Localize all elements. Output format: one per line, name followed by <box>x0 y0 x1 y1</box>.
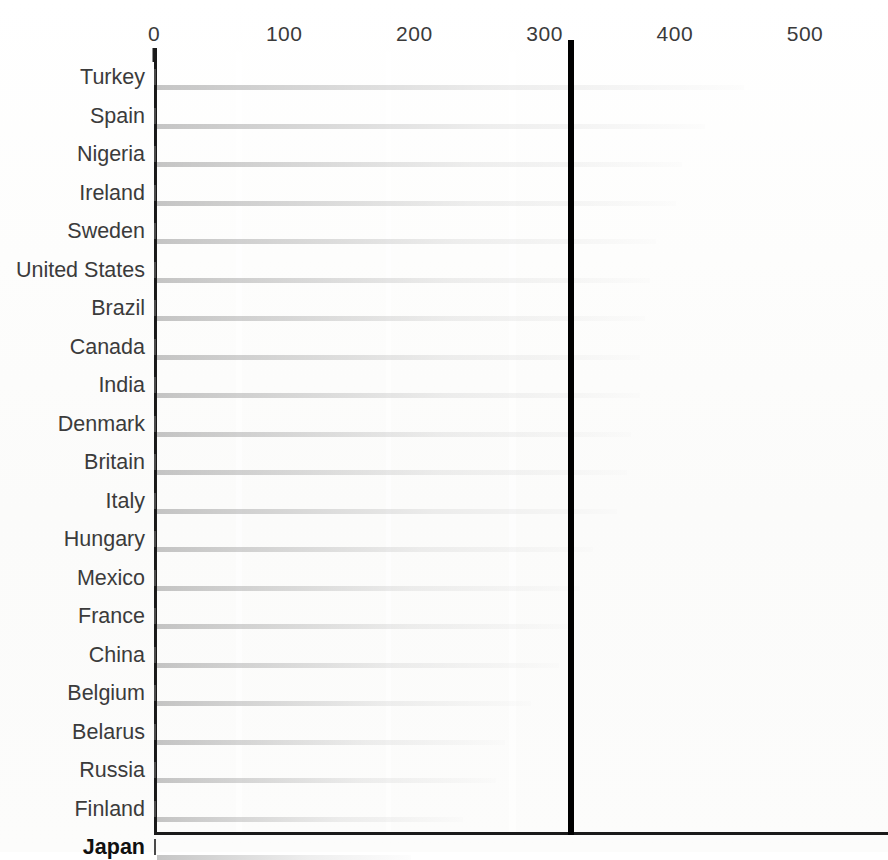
bar-shadow <box>157 624 572 629</box>
x-tick-label: 0 <box>148 22 160 46</box>
x-tick-label: 500 <box>787 22 824 46</box>
bar-shadow <box>157 663 559 668</box>
category-label-india: India <box>0 373 145 398</box>
bar-row[interactable] <box>154 185 673 201</box>
bar-row[interactable] <box>154 608 569 624</box>
bar-shadow <box>157 432 631 437</box>
bar-row[interactable] <box>154 839 408 855</box>
bar[interactable] <box>154 300 156 316</box>
bar-shadow <box>157 85 744 90</box>
bar-row[interactable] <box>154 146 679 162</box>
bar[interactable] <box>154 185 156 201</box>
bar[interactable] <box>154 262 156 278</box>
bar[interactable] <box>154 801 156 817</box>
category-label-ireland: Ireland <box>0 181 145 206</box>
bar-row[interactable] <box>154 531 590 547</box>
bar-row[interactable] <box>154 223 653 239</box>
bar-shadow <box>157 278 650 283</box>
bar[interactable] <box>154 223 156 239</box>
bar[interactable] <box>154 762 156 778</box>
bar-row[interactable] <box>154 416 628 432</box>
bar[interactable] <box>154 339 156 355</box>
category-label-russia: Russia <box>0 758 145 783</box>
category-label-mexico: Mexico <box>0 566 145 591</box>
bar-shadow <box>157 470 627 475</box>
category-label-denmark: Denmark <box>0 412 145 437</box>
x-tick-label: 200 <box>396 22 433 46</box>
bar-row[interactable] <box>154 570 577 586</box>
bar-shadow <box>157 124 705 129</box>
scan-band <box>236 52 242 835</box>
bar-shadow <box>157 740 505 745</box>
bar-row[interactable] <box>154 108 702 124</box>
bar-shadow <box>157 701 531 706</box>
x-tick-label: 300 <box>526 22 563 46</box>
bar-row[interactable] <box>154 377 637 393</box>
bar-row[interactable] <box>154 801 460 817</box>
reference-line <box>568 40 574 835</box>
bar-shadow <box>157 162 682 167</box>
category-label-italy: Italy <box>0 489 145 514</box>
category-label-britain: Britain <box>0 450 145 475</box>
category-label-china: China <box>0 643 145 668</box>
category-label-turkey: Turkey <box>0 65 145 90</box>
scan-band <box>509 52 516 835</box>
bar[interactable] <box>154 647 156 663</box>
category-label-japan: Japan <box>0 835 145 860</box>
bar[interactable] <box>154 416 156 432</box>
bar[interactable] <box>154 108 156 124</box>
category-label-sweden: Sweden <box>0 219 145 244</box>
x-tick-label: 400 <box>657 22 694 46</box>
bar[interactable] <box>154 146 156 162</box>
bar-row[interactable] <box>154 454 624 470</box>
bar[interactable] <box>154 570 156 586</box>
bar[interactable] <box>154 685 156 701</box>
bar[interactable] <box>154 608 156 624</box>
category-label-finland: Finland <box>0 797 145 822</box>
bar[interactable] <box>154 454 156 470</box>
bar[interactable] <box>154 531 156 547</box>
bar-row[interactable] <box>154 647 556 663</box>
bar[interactable] <box>154 69 156 85</box>
category-label-brazil: Brazil <box>0 296 145 321</box>
bar-shadow <box>157 239 656 244</box>
bar-row[interactable] <box>154 339 637 355</box>
category-label-nigeria: Nigeria <box>0 142 145 167</box>
bar[interactable] <box>154 493 156 509</box>
category-label-spain: Spain <box>0 104 145 129</box>
category-label-hungary: Hungary <box>0 527 145 552</box>
bar-shadow <box>157 778 496 783</box>
category-label-united-states: United States <box>0 258 145 283</box>
category-label-france: France <box>0 604 145 629</box>
category-label-belarus: Belarus <box>0 720 145 745</box>
x-tick-label: 100 <box>266 22 303 46</box>
bar-shadow <box>157 547 593 552</box>
x-axis-line <box>154 832 888 835</box>
bar-row[interactable] <box>154 724 502 740</box>
bar-shadow <box>157 201 676 206</box>
bar-row[interactable] <box>154 69 741 85</box>
x-axis-tick-labels: 0100200300400500 <box>0 22 888 52</box>
bar-shadow <box>157 855 411 860</box>
bar[interactable] <box>154 377 156 393</box>
bar-row[interactable] <box>154 762 493 778</box>
bar[interactable] <box>154 724 156 740</box>
bar-shadow <box>157 586 580 591</box>
bar-shadow <box>157 509 617 514</box>
bar-row[interactable] <box>154 685 528 701</box>
bar-shadow <box>157 817 463 822</box>
category-label-belgium: Belgium <box>0 681 145 706</box>
scan-band <box>386 52 391 835</box>
category-label-canada: Canada <box>0 335 145 360</box>
bar[interactable] <box>154 839 156 855</box>
bar-row[interactable] <box>154 493 614 509</box>
